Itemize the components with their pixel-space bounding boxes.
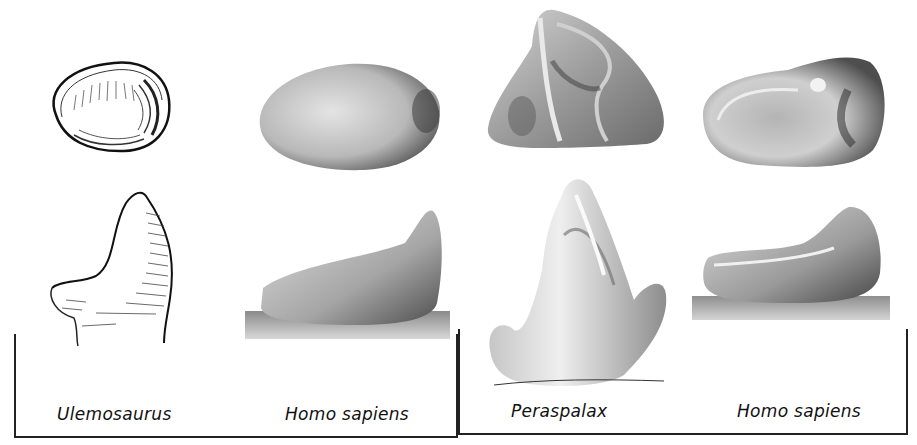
caption-homo-sapiens-left: Homo sapiens (285, 404, 409, 424)
tooth-comparison-figure: Ulemosaurus Homo sapiens Peraspalax Homo… (0, 0, 917, 445)
homo-sapiens-lateral-view-1 (255, 203, 455, 348)
ulemosaurus-occlusal-view (44, 55, 174, 155)
ulemosaurus-lateral-view (46, 188, 176, 348)
caption-ulemosaurus: Ulemosaurus (57, 404, 172, 424)
peraspalax-occlusal-view (482, 6, 677, 156)
caption-peraspalax: Peraspalax (511, 401, 607, 421)
caption-homo-sapiens-right: Homo sapiens (737, 401, 861, 421)
homo-sapiens-lateral-view-2 (694, 203, 894, 323)
homo-sapiens-occlusal-view-2 (698, 50, 890, 175)
homo-sapiens-occlusal-view-1 (254, 56, 444, 176)
